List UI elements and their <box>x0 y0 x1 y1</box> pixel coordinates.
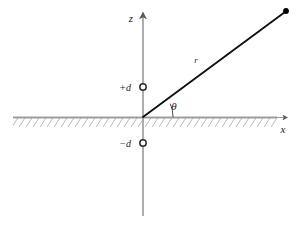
source-marker-negative <box>140 140 146 146</box>
source-label-negative: −d <box>119 138 132 149</box>
z-axis-label: z <box>128 12 134 24</box>
ray-line <box>143 12 285 117</box>
source-label-positive: +d <box>119 82 132 93</box>
angle-theta-label: θ <box>171 100 177 112</box>
physics-diagram-figure: z x r θ +d −d <box>0 0 301 229</box>
ray-endpoint-dot <box>283 8 289 14</box>
x-axis-label: x <box>280 123 286 135</box>
ground-hatching <box>13 118 277 127</box>
diagram-canvas: z x r θ +d −d <box>0 0 301 229</box>
source-marker-positive <box>140 84 146 90</box>
ray-length-label: r <box>194 55 198 65</box>
